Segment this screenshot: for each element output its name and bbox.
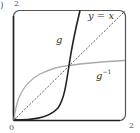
- y-max-label: 2: [14, 0, 19, 8]
- identity-label: y = x: [88, 11, 114, 21]
- g-inverse-label-sup: −1: [102, 68, 111, 75]
- origin-label: 0: [9, 124, 14, 132]
- g-inverse-label: g−1: [96, 69, 111, 81]
- x-max-label: 2: [129, 122, 134, 130]
- plot-area: [0, 0, 140, 133]
- g-curve-label: g: [56, 35, 62, 45]
